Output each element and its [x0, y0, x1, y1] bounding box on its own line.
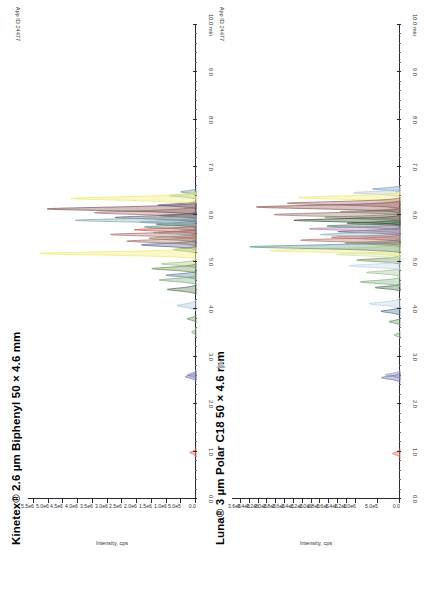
x-axis-minor-tick: [195, 318, 197, 319]
plot-area-luna: 0.01.02.03.04.05.06.07.08.09.010.0 min0.…: [232, 25, 400, 499]
x-axis-minor-tick: [195, 223, 197, 224]
x-axis-minor-tick: [195, 337, 197, 338]
figure-page: Kinetex® 2.6 µm Biphenyl 50 × 4.6 mm App…: [0, 0, 425, 593]
x-axis-tick-label: 10.0 min: [412, 14, 418, 36]
chromatogram-trace-luna: [232, 25, 400, 499]
x-axis-tick: [193, 403, 197, 404]
x-axis-tick: [193, 166, 197, 167]
x-axis-minor-tick: [195, 195, 197, 196]
x-axis-minor-tick: [195, 441, 197, 442]
x-axis-tick: [193, 214, 197, 215]
y-axis-tick-label: 4.5e6: [50, 503, 63, 509]
y-axis-tick-label: 2.0e6: [124, 503, 137, 509]
x-axis-minor-tick: [195, 479, 197, 480]
x-axis-tick-label: 8.0: [412, 116, 418, 124]
x-axis-minor-tick: [195, 280, 197, 281]
x-axis-minor-tick: [195, 394, 197, 395]
chromatogram-peak: [369, 298, 400, 309]
x-axis-minor-tick: [195, 413, 197, 414]
y-axis-tick-label: 1.5e6: [139, 503, 152, 509]
x-axis-tick: [193, 308, 197, 309]
x-axis-minor-tick: [195, 375, 197, 376]
x-axis-minor-tick: [195, 422, 197, 423]
x-axis-minor-tick: [195, 233, 197, 234]
x-axis-minor-tick: [195, 204, 197, 205]
x-axis-minor-tick: [195, 460, 197, 461]
x-axis-minor-tick: [195, 138, 197, 139]
x-axis-tick-label: 7.0: [208, 163, 214, 171]
x-axis-minor-tick: [399, 147, 401, 148]
x-axis-tick: [397, 403, 401, 404]
x-axis-minor-tick: [195, 128, 197, 129]
x-axis-minor-tick: [399, 289, 401, 290]
x-axis-minor-tick: [399, 185, 401, 186]
x-axis-tick: [397, 166, 401, 167]
x-axis-minor-tick: [195, 384, 197, 385]
x-axis-minor-tick: [399, 432, 401, 433]
cursor-arrow-artefact: [216, 360, 226, 368]
x-axis-minor-tick: [195, 489, 197, 490]
x-axis-minor-tick: [195, 365, 197, 366]
x-axis-tick-label: 9.0: [208, 68, 214, 76]
y-axis-label: Intensity, cps: [300, 540, 332, 546]
chromatogram-peak: [167, 284, 196, 294]
x-axis-minor-tick: [195, 270, 197, 271]
x-axis-minor-tick: [195, 252, 197, 253]
y-axis-tick-label: 5.5e6: [21, 503, 34, 509]
x-axis-minor-tick: [399, 90, 401, 91]
panel-title-luna: Luna® 3 µm Polar C18 50 × 4.6 mm: [214, 351, 226, 545]
y-axis-tick-label: 2.5e6: [109, 503, 122, 509]
x-axis-tick: [193, 356, 197, 357]
x-axis-tick-label: 5.0: [208, 258, 214, 266]
panel-title-kinetex: Kinetex® 2.6 µm Biphenyl 50 × 4.6 mm: [10, 332, 22, 545]
x-axis-tick: [397, 308, 401, 309]
x-axis-tick: [397, 119, 401, 120]
x-axis-minor-tick: [195, 470, 197, 471]
x-axis-minor-tick: [399, 81, 401, 82]
chromatogram-panel-kinetex: Kinetex® 2.6 µm Biphenyl 50 × 4.6 mm App…: [14, 5, 214, 545]
x-axis-tick-label: 3.0: [412, 353, 418, 361]
x-axis-tick: [193, 24, 197, 25]
y-axis-tick-label: 5.0e5: [365, 503, 378, 509]
x-axis-minor-tick: [399, 441, 401, 442]
x-axis-minor-tick: [195, 299, 197, 300]
y-axis-tick-label: 5.0e6: [36, 503, 49, 509]
plot-area-kinetex: 0.01.02.03.04.05.06.07.08.09.010.0 min0.…: [28, 25, 196, 499]
x-axis-tick-label: 9.0: [412, 68, 418, 76]
x-axis-minor-tick: [399, 375, 401, 376]
x-axis-minor-tick: [399, 270, 401, 271]
chromatogram-trace-kinetex: [28, 25, 196, 499]
x-axis-minor-tick: [399, 460, 401, 461]
x-axis-tick: [397, 214, 401, 215]
x-axis-minor-tick: [399, 280, 401, 281]
x-axis-tick-label: 6.0: [208, 211, 214, 219]
x-axis-tick: [193, 71, 197, 72]
y-axis-tick-label: 0.0: [393, 503, 400, 509]
x-axis-minor-tick: [399, 470, 401, 471]
x-axis-minor-tick: [399, 242, 401, 243]
x-axis-tick-label: 10.0 min: [208, 14, 214, 36]
x-axis-minor-tick: [195, 52, 197, 53]
x-axis-minor-tick: [195, 100, 197, 101]
x-axis-minor-tick: [399, 318, 401, 319]
chromatogram-peak: [71, 192, 196, 205]
x-axis-minor-tick: [195, 90, 197, 91]
x-axis-tick: [397, 356, 401, 357]
x-axis-minor-tick: [399, 100, 401, 101]
x-axis-minor-tick: [195, 157, 197, 158]
x-axis-minor-tick: [195, 43, 197, 44]
x-axis-tick-label: 4.0: [208, 305, 214, 313]
chromatogram-peak: [190, 448, 196, 457]
x-axis-minor-tick: [195, 242, 197, 243]
x-axis-tick: [397, 24, 401, 25]
x-axis-minor-tick: [399, 299, 401, 300]
x-axis-tick: [193, 451, 197, 452]
x-axis-minor-tick: [399, 233, 401, 234]
app-id-label-luna: App ID 24477: [219, 7, 225, 41]
x-axis-minor-tick: [195, 147, 197, 148]
y-axis-label: Intensity, cps: [96, 540, 128, 546]
x-axis-tick: [397, 261, 401, 262]
chromatogram-panel-luna: Luna® 3 µm Polar C18 50 × 4.6 mm App ID …: [218, 5, 418, 545]
x-axis-minor-tick: [399, 204, 401, 205]
y-axis-tick-label: 3.0e6: [95, 503, 108, 509]
